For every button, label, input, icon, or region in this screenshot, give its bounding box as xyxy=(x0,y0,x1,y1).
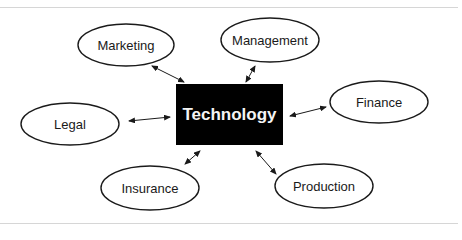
connector-arrow-legal xyxy=(129,117,170,121)
node-label-management: Management xyxy=(232,33,308,48)
node-label-production: Production xyxy=(293,179,355,194)
connector-arrow-finance xyxy=(290,107,326,116)
connector-arrow-production xyxy=(256,151,276,174)
node-label-marketing: Marketing xyxy=(97,38,154,53)
technology-hub-label: Technology xyxy=(182,105,276,125)
node-label-insurance: Insurance xyxy=(121,181,178,196)
node-label-finance: Finance xyxy=(356,95,402,110)
connector-arrow-insurance xyxy=(185,151,200,164)
connector-arrow-marketing xyxy=(152,66,184,82)
node-label-legal: Legal xyxy=(54,117,86,132)
connector-arrow-management xyxy=(246,66,255,82)
